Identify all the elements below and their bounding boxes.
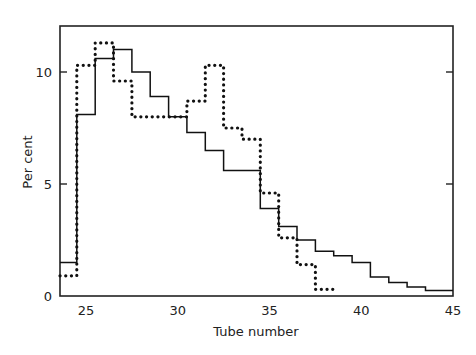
y-tick-label: 10	[35, 65, 52, 80]
plot-frame	[60, 26, 453, 296]
x-tick-label: 25	[78, 303, 95, 318]
x-tick-label: 30	[169, 303, 186, 318]
y-axis-label: Per cent	[20, 135, 35, 188]
histogram-chart: 05102530354045 Tube number Per cent	[0, 0, 476, 355]
plot-series	[60, 43, 453, 291]
y-tick-label: 0	[44, 289, 52, 304]
axis-ticks: 05102530354045	[35, 65, 461, 318]
dotted-series-line	[60, 43, 334, 289]
x-axis-label: Tube number	[212, 324, 299, 339]
solid-series-line	[60, 50, 453, 291]
y-tick-label: 5	[44, 177, 52, 192]
plot-border	[60, 26, 453, 296]
x-tick-label: 35	[261, 303, 278, 318]
x-tick-label: 40	[353, 303, 370, 318]
x-tick-label: 45	[445, 303, 462, 318]
